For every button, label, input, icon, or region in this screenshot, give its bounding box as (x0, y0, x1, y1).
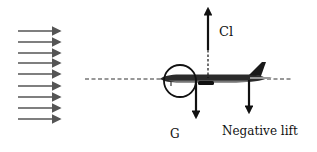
lift-label: Cl (219, 24, 233, 39)
gravity-label: G (170, 127, 180, 141)
airflow-arrows (18, 31, 60, 119)
negative-lift-label: Negative lift (222, 124, 298, 138)
